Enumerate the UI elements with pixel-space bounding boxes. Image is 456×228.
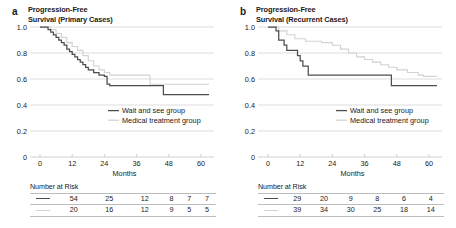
x-tick-label-60: 60 (425, 159, 433, 168)
nar-cell: 18 (391, 205, 418, 217)
nar-cell: 7 (180, 193, 198, 205)
nar-key-line-icon (36, 210, 50, 211)
panel-a-nar-table: 542512877201612955 (30, 193, 216, 218)
nar-cell: 6 (391, 193, 418, 205)
panel-b-nar-table: 29209864393430251814 (258, 193, 444, 218)
panel-b-nar-title: Number at Risk (258, 183, 444, 192)
panel-a: a Progression-Free Survival (Primary Cas… (0, 0, 228, 228)
nar-cell: 39 (284, 205, 311, 217)
kaplan-meier-figure: a Progression-Free Survival (Primary Cas… (0, 0, 456, 228)
nar-key-line-icon (264, 198, 278, 199)
nar-cell: 29 (284, 193, 311, 205)
nar-cell: 12 (127, 193, 163, 205)
y-tick-label-0.6: 0.6 (17, 75, 27, 84)
km-curve-medical-treatment (268, 27, 437, 76)
nar-cell: 12 (127, 205, 163, 217)
y-tick-label-0.4: 0.4 (17, 101, 27, 110)
x-tick-label-36: 36 (361, 159, 369, 168)
panel-b-number-at-risk: Number at Risk 29209864393430251814 (258, 183, 444, 217)
nar-cell: 7 (198, 193, 216, 205)
legend-label-0: Wait and see group (122, 106, 185, 115)
nar-cell: 5 (180, 205, 198, 217)
y-tick-label-0.2: 0.2 (17, 127, 27, 136)
nar-row-key (30, 205, 56, 217)
nar-cell: 30 (337, 205, 364, 217)
panel-a-nar-title: Number at Risk (30, 183, 216, 192)
x-axis-title: Months (113, 169, 137, 178)
y-tick-label-0.8: 0.8 (17, 49, 27, 58)
y-tick-label-0.4: 0.4 (245, 101, 255, 110)
x-tick-label-60: 60 (197, 159, 205, 168)
nar-cell: 20 (56, 205, 92, 217)
km-curve-wait-and-see (268, 27, 437, 86)
x-axis-title: Months (341, 169, 365, 178)
y-tick-label-0.8: 0.8 (245, 49, 255, 58)
km-curve-medical-treatment (40, 27, 209, 84)
nar-cell: 9 (337, 193, 364, 205)
x-tick-label-36: 36 (133, 159, 141, 168)
nar-cell: 5 (198, 205, 216, 217)
nar-cell: 34 (311, 205, 338, 217)
nar-cell: 9 (163, 205, 181, 217)
nar-cell: 25 (364, 205, 391, 217)
nar-cell: 4 (417, 193, 444, 205)
nar-cell: 8 (364, 193, 391, 205)
nar-cell: 25 (92, 193, 128, 205)
y-tick-label-1: 1.0 (17, 23, 27, 32)
nar-cell: 54 (56, 193, 92, 205)
panel-b: b Progression-Free Survival (Recurrent C… (228, 0, 456, 228)
nar-cell: 8 (163, 193, 181, 205)
nar-row-key (30, 193, 56, 205)
nar-row: 29209864 (258, 193, 444, 205)
y-tick-label-0: 0 (23, 153, 27, 162)
legend-label-1: Medical treatment group (350, 116, 429, 125)
x-tick-label-12: 12 (296, 159, 304, 168)
nar-cell: 16 (92, 205, 128, 217)
y-tick-label-0.6: 0.6 (245, 75, 255, 84)
y-tick-label-0: 0 (251, 153, 255, 162)
nar-row: 201612955 (30, 205, 216, 217)
nar-cell: 14 (417, 205, 444, 217)
x-tick-label-48: 48 (165, 159, 173, 168)
y-tick-label-1: 1.0 (245, 23, 255, 32)
nar-key-line-icon (36, 198, 50, 199)
x-tick-label-48: 48 (393, 159, 401, 168)
nar-row-key (258, 193, 284, 205)
x-tick-label-24: 24 (100, 159, 108, 168)
x-tick-label-0: 0 (266, 159, 270, 168)
x-tick-label-12: 12 (68, 159, 76, 168)
nar-row: 393430251814 (258, 205, 444, 217)
x-tick-label-24: 24 (328, 159, 336, 168)
y-tick-label-0.2: 0.2 (245, 127, 255, 136)
nar-row-key (258, 205, 284, 217)
nar-row: 542512877 (30, 193, 216, 205)
nar-cell: 20 (311, 193, 338, 205)
x-tick-label-0: 0 (38, 159, 42, 168)
panel-a-number-at-risk: Number at Risk 542512877201612955 (30, 183, 216, 217)
nar-key-line-icon (264, 210, 278, 211)
legend-label-0: Wait and see group (350, 106, 413, 115)
legend-label-1: Medical treatment group (122, 116, 201, 125)
